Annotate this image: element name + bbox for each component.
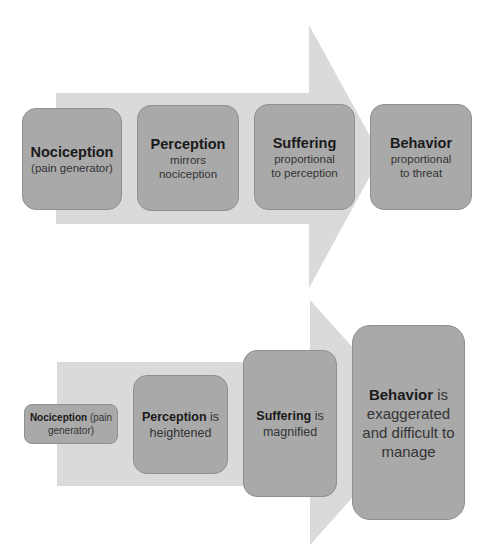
amplified-step-nociception: Nociception (pain generator): [24, 404, 118, 444]
step-subtitle-line-1: proportional: [391, 152, 452, 166]
amplified-step-perception: Perception is heightened: [133, 375, 228, 474]
step-text: Suffering is magnified: [244, 408, 336, 440]
step-nociception: Nociception (pain generator): [22, 108, 122, 210]
step-perception: Perception mirrors nociception: [137, 105, 239, 211]
step-title: Behavior: [390, 135, 452, 152]
step-title: Perception: [151, 136, 226, 153]
step-subtitle-line-2: to perception: [271, 166, 338, 180]
step-subtitle-line-2: to threat: [400, 166, 442, 180]
step-subtitle-line-1: proportional: [274, 152, 335, 166]
step-subtitle: (pain generator): [31, 161, 113, 175]
step-suffering: Suffering proportional to perception: [254, 104, 355, 210]
step-behavior: Behavior proportional to threat: [370, 104, 472, 210]
step-subtitle-line-1: mirrors: [170, 153, 206, 167]
step-subtitle-line-2: nociception: [159, 167, 217, 181]
step-text: Perception is heightened: [134, 409, 227, 441]
amplified-step-behavior: Behavior is exaggerated and difficult to…: [352, 325, 465, 520]
step-title: Suffering: [273, 135, 337, 152]
step-text: Behavior is exaggerated and difficult to…: [353, 385, 464, 461]
step-title: Nociception: [31, 144, 114, 161]
step-text: Nociception (pain generator): [25, 411, 117, 437]
amplified-step-suffering: Suffering is magnified: [243, 350, 337, 497]
